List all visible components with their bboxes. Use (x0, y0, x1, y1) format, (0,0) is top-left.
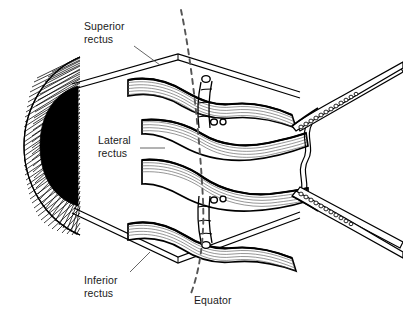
figure-drawing (0, 0, 403, 319)
label-lateral-rectus: Lateral rectus (98, 134, 131, 159)
label-superior-rectus: Superior rectus (84, 20, 125, 45)
label-inferior-rectus: Inferior rectus (84, 274, 117, 299)
anatomical-figure: Superior rectus Lateral rectus Inferior … (0, 0, 403, 319)
label-equator: Equator (194, 294, 231, 307)
